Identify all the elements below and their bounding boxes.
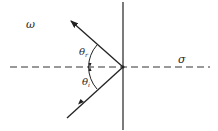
theta-i-label: θi <box>82 76 90 88</box>
theta-r-subscript: r <box>85 51 89 58</box>
incident-ray <box>67 67 123 118</box>
sigma-label: σ <box>178 53 186 66</box>
theta-r-label: θr <box>79 46 89 58</box>
reflection-diagram: ω σ θr θi <box>0 0 218 131</box>
omega-label: ω <box>26 18 35 31</box>
reflected-ray <box>71 21 123 67</box>
theta-i-subscript: i <box>88 81 90 88</box>
incidence-point <box>122 66 125 69</box>
